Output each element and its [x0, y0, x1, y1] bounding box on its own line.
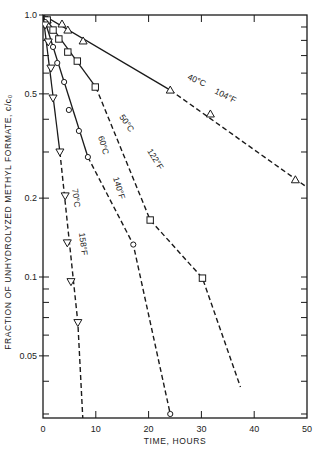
- y-tick-label: 0.1: [24, 272, 37, 282]
- series-label-70c-fahrenheit: 158°F: [77, 232, 90, 256]
- series-label-60c-celsius: 60°C: [96, 135, 111, 156]
- data-point-50c: [65, 49, 71, 55]
- x-tick-label: 30: [196, 424, 206, 434]
- methyl-formate-hydrolysis-chart: 01020304050 1.00.50.20.10.05 40°C104°F50…: [0, 0, 321, 450]
- series-label-50c-celsius: 50°C: [117, 112, 136, 133]
- data-point-60c: [66, 107, 71, 112]
- x-axis-title: TIME, HOURS: [144, 436, 206, 446]
- data-point-40c: [291, 176, 299, 183]
- data-point-70c: [61, 193, 69, 200]
- fit-line-dashed-60c: [88, 157, 170, 414]
- data-point-50c: [92, 84, 98, 90]
- x-axis: 01020304050: [40, 15, 312, 434]
- series-labels: 40°C104°F50°C122°F60°C140°F70°C158°F: [70, 72, 238, 256]
- data-point-70c: [47, 65, 55, 72]
- x-tick-label: 40: [249, 424, 259, 434]
- fit-line-solid-60c: [43, 15, 88, 157]
- data-point-70c: [49, 95, 57, 102]
- series-layer: [41, 15, 307, 435]
- data-point-60c: [85, 154, 90, 159]
- x-tick-label: 50: [302, 424, 312, 434]
- x-tick-label: 20: [144, 424, 154, 434]
- data-point-50c: [50, 27, 56, 33]
- data-point-40c: [58, 20, 66, 27]
- x-tick-label: 0: [40, 424, 45, 434]
- data-point-40c: [206, 110, 214, 117]
- data-point-40c: [166, 86, 174, 93]
- plot-border: [43, 15, 307, 418]
- data-point-70c: [41, 22, 49, 29]
- series-label-40c-fahrenheit: 104°F: [213, 86, 238, 105]
- plot-frame: [43, 15, 307, 418]
- series-label-70c-celsius: 70°C: [70, 188, 83, 208]
- data-point-50c: [56, 36, 62, 42]
- data-point-50c: [199, 275, 205, 281]
- data-point-60c: [131, 242, 136, 247]
- data-point-60c: [76, 128, 81, 133]
- series-label-40c-celsius: 40°C: [186, 72, 207, 89]
- data-point-50c: [147, 217, 153, 223]
- fit-line-dashed-40c: [170, 90, 307, 187]
- data-point-50c: [74, 58, 80, 64]
- series-label-50c-fahrenheit: 122°F: [145, 147, 166, 172]
- y-axis: 1.00.50.20.10.05: [19, 10, 307, 414]
- fit-line-dashed-50c: [96, 87, 241, 387]
- data-point-70c: [56, 149, 64, 156]
- y-tick-label: 0.05: [19, 351, 37, 361]
- y-tick-label: 1.0: [24, 10, 37, 20]
- data-point-60c: [168, 411, 173, 416]
- series-label-60c-fahrenheit: 140°F: [111, 176, 127, 201]
- x-tick-label: 10: [91, 424, 101, 434]
- y-tick-label: 0.5: [24, 89, 37, 99]
- data-point-70c: [74, 320, 82, 327]
- data-point-60c: [50, 44, 55, 49]
- y-axis-title: FRACTION OF UNHYDROLYZED METHYL FORMATE,…: [3, 94, 13, 350]
- y-tick-label: 0.2: [24, 193, 37, 203]
- data-point-60c: [62, 79, 67, 84]
